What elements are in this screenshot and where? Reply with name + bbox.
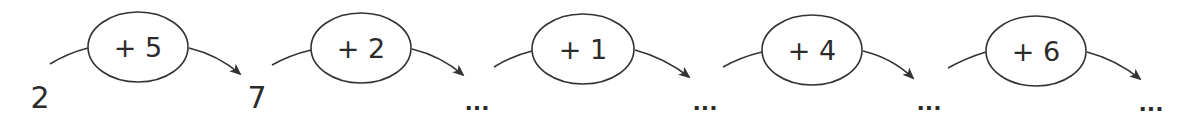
arrow-curve bbox=[412, 49, 463, 75]
incoming-curve bbox=[948, 52, 986, 68]
operator-label: + 1 bbox=[559, 34, 607, 65]
addition-chain-diagram: + 5 + 2 + 1 + 4 + 6 2 7 ... ... ... ... bbox=[0, 0, 1194, 118]
operator-label: + 2 bbox=[337, 33, 385, 64]
result-value-5: ... bbox=[1138, 91, 1163, 116]
arrow-curve bbox=[863, 51, 913, 78]
step-5: + 6 bbox=[948, 16, 1140, 86]
result-value-3: ... bbox=[692, 90, 717, 115]
arrow-curve bbox=[1087, 52, 1140, 79]
result-value-1: 7 bbox=[247, 80, 266, 115]
operator-label: + 5 bbox=[114, 32, 162, 63]
result-value-4: ... bbox=[916, 90, 941, 115]
operator-label: + 4 bbox=[788, 35, 836, 66]
incoming-curve bbox=[272, 50, 311, 65]
incoming-curve bbox=[50, 48, 88, 64]
operator-label: + 6 bbox=[1012, 36, 1060, 67]
step-3: + 1 bbox=[494, 14, 689, 84]
incoming-curve bbox=[723, 52, 762, 67]
step-4: + 4 bbox=[723, 15, 913, 85]
step-2: + 2 bbox=[272, 13, 463, 83]
arrow-curve bbox=[189, 48, 240, 74]
incoming-curve bbox=[494, 51, 532, 67]
step-1: + 5 bbox=[50, 12, 240, 82]
result-value-2: ... bbox=[464, 90, 489, 115]
arrow-curve bbox=[635, 50, 689, 77]
start-value: 2 bbox=[30, 80, 49, 115]
